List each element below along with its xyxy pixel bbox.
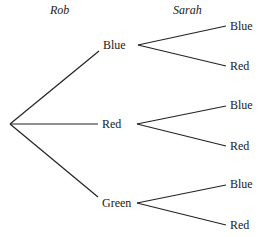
branch-red-blue [137, 106, 226, 124]
branch-green-red [137, 203, 226, 225]
node-rob-blue: Blue [103, 38, 126, 52]
branch-root-blue [10, 51, 99, 124]
node-rob-red: Red [102, 117, 121, 131]
node-rob-green: Green [102, 196, 131, 210]
header-rob: Rob [50, 3, 69, 17]
leaf-green-blue: Blue [230, 177, 253, 191]
branch-red-red [137, 124, 226, 146]
branch-green-blue [137, 185, 226, 203]
leaf-blue-blue: Blue [230, 19, 253, 33]
branch-root-green [10, 124, 98, 197]
header-sarah: Sarah [173, 3, 202, 17]
leaf-red-blue: Blue [230, 98, 253, 112]
branch-blue-blue [138, 26, 226, 45]
leaf-red-red: Red [230, 139, 249, 153]
leaf-blue-red: Red [230, 59, 249, 73]
leaf-green-red: Red [230, 218, 249, 232]
branch-blue-red [138, 45, 226, 66]
